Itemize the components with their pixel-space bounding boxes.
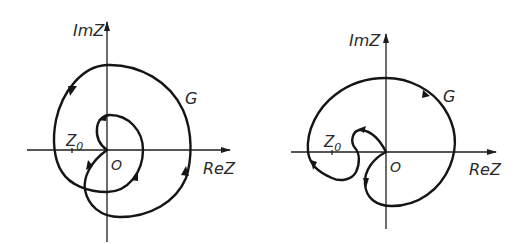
left-arrow-top <box>68 86 77 96</box>
left-z0-label: Z0 <box>65 132 83 153</box>
left-real-axis-label: ReZ <box>203 159 236 178</box>
right-figure: ImZ ReZ O G Z0 <box>291 31 502 229</box>
right-real-axis-label: ReZ <box>469 160 502 179</box>
right-z0-label: Z0 <box>323 133 341 154</box>
right-origin-label: O <box>390 159 401 175</box>
diagram-canvas: ImZ ReZ O G Z0 ImZ ReZ O G Z0 <box>0 0 527 244</box>
left-arrow-inner-top <box>98 114 107 121</box>
left-origin-label: O <box>111 157 122 173</box>
right-imaginary-axis-label: ImZ <box>349 31 381 50</box>
right-curve-label: G <box>443 87 455 106</box>
left-figure: ImZ ReZ O G Z0 <box>27 21 236 242</box>
left-arrow-inner-bottom <box>131 172 138 181</box>
left-imaginary-axis-label: ImZ <box>73 21 105 40</box>
left-curve-label: G <box>185 89 197 108</box>
right-arrow-loop <box>358 126 366 133</box>
